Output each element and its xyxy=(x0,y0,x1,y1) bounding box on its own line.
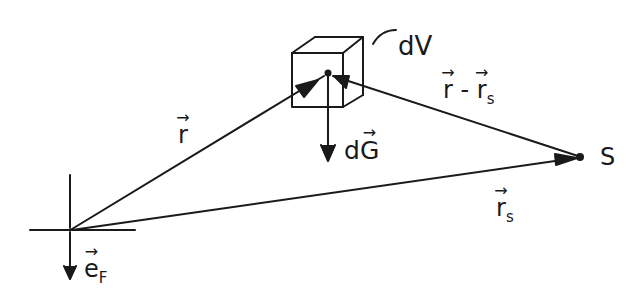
dg-arrow xyxy=(321,75,335,161)
label-ef: eF xyxy=(84,257,107,286)
label-rmrs-sub: s xyxy=(487,90,495,108)
label-ef-sub: F xyxy=(99,269,108,287)
label-rs-main: r xyxy=(496,196,506,220)
label-rmrs-a: r xyxy=(443,78,453,102)
label-r-main: r xyxy=(178,123,188,147)
source-point xyxy=(576,153,584,161)
label-r: r xyxy=(178,123,188,147)
label-rs: rs xyxy=(496,196,514,225)
label-dv: dV xyxy=(398,33,432,59)
label-rmrs-b: r xyxy=(477,78,487,102)
label-rs-sub: s xyxy=(506,208,514,226)
label-rmrs-minus: - xyxy=(461,76,470,104)
label-dg-g: G xyxy=(360,138,379,163)
label-ef-main: e xyxy=(84,257,99,281)
volume-center-point xyxy=(325,70,332,77)
r-vector-arrow xyxy=(72,76,324,229)
ef-arrow xyxy=(64,232,76,279)
label-dg-d: d xyxy=(344,136,360,165)
label-s: S xyxy=(600,145,615,169)
dv-leader xyxy=(373,30,396,44)
label-r-minus-rs: r - rs xyxy=(443,78,495,107)
label-dg: dG xyxy=(344,138,379,163)
